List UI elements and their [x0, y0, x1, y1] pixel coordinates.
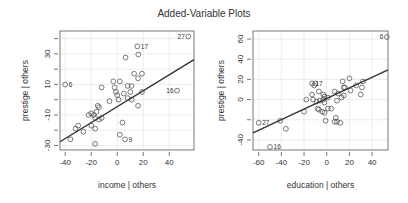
av-plot-education: -60-40-2002040-400204060education | othe…	[216, 31, 389, 190]
data-point	[76, 123, 81, 128]
x-tick-label: -40	[276, 158, 288, 167]
data-point	[117, 79, 122, 84]
data-point	[329, 106, 334, 111]
plot-frame	[60, 31, 194, 150]
x-tick-label: 40	[165, 158, 174, 167]
plot-frame	[253, 31, 388, 150]
data-point	[310, 92, 315, 97]
data-point	[111, 79, 116, 84]
x-tick-label: 40	[368, 158, 377, 167]
data-point	[97, 105, 102, 110]
x-tick-label: -40	[59, 158, 71, 167]
x-tick-label: -60	[253, 158, 265, 167]
data-point	[135, 44, 140, 49]
y-axis-label: prestige | others	[216, 60, 226, 121]
data-point	[136, 103, 141, 108]
y-tick-label: 0	[236, 97, 245, 102]
x-tick-label: -20	[298, 158, 310, 167]
data-point	[94, 109, 99, 114]
data-point	[338, 120, 343, 125]
data-point	[121, 91, 126, 96]
x-axis-label: income | others	[98, 180, 156, 190]
regression-line	[60, 60, 194, 142]
data-point	[283, 126, 288, 131]
av-plots-canvas: -40-2002040-30-101030income | otherspres…	[0, 0, 408, 203]
data-point	[132, 71, 137, 76]
x-tick-label: 20	[139, 158, 148, 167]
y-tick-label: 10	[43, 79, 52, 88]
y-tick-label: -30	[43, 139, 52, 151]
x-tick-label: -20	[85, 158, 97, 167]
data-point	[117, 132, 122, 137]
point-label: 16	[274, 143, 282, 150]
data-point	[95, 103, 100, 108]
data-point	[136, 52, 141, 57]
y-axis-label: prestige | others	[20, 60, 30, 121]
point-label: 6	[69, 81, 73, 88]
data-point	[120, 120, 125, 125]
y-tick-label: -10	[43, 109, 52, 121]
y-tick-label: 20	[236, 74, 245, 83]
data-point	[335, 98, 340, 103]
y-tick-label: -40	[236, 134, 245, 146]
x-tick-label: 0	[115, 158, 120, 167]
y-tick-label: 60	[236, 34, 245, 43]
x-tick-label: 20	[345, 158, 354, 167]
point-label: 17	[141, 43, 149, 50]
data-point	[114, 90, 119, 95]
data-point	[268, 145, 273, 150]
data-point	[360, 85, 365, 90]
data-point	[323, 118, 328, 123]
x-tick-label: 0	[325, 158, 330, 167]
data-point	[123, 55, 128, 60]
point-label: 6	[380, 33, 384, 40]
data-point	[112, 85, 117, 90]
data-point	[99, 85, 104, 90]
data-point	[136, 76, 141, 81]
x-axis-label: education | others	[287, 180, 354, 190]
data-point	[140, 71, 145, 76]
y-tick-label: 40	[236, 54, 245, 63]
av-plot-income: -40-2002040-30-101030income | otherspres…	[20, 31, 194, 190]
point-label: 27	[178, 33, 186, 40]
data-point	[358, 92, 363, 97]
data-point	[186, 34, 191, 39]
data-point	[128, 90, 133, 95]
data-point	[123, 137, 128, 142]
y-tick-label: 30	[43, 49, 52, 58]
data-point	[316, 89, 321, 94]
point-label: 9	[129, 136, 133, 143]
point-label: 16	[166, 87, 174, 94]
data-point	[68, 137, 73, 142]
data-point	[175, 88, 180, 93]
